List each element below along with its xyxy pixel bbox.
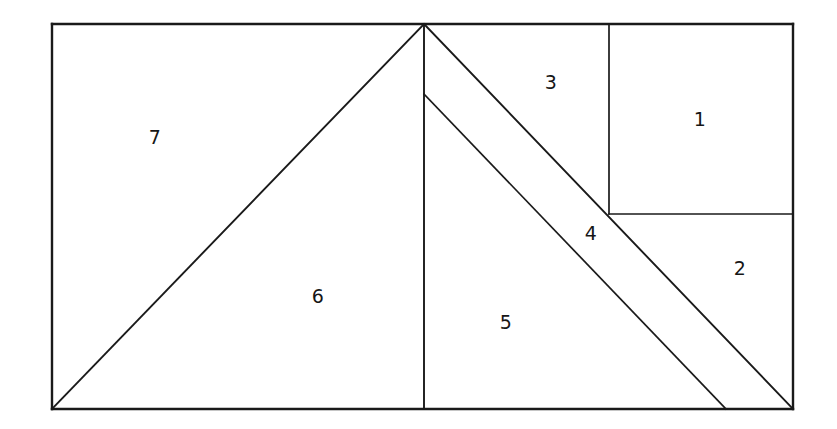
region-7-label: 7 [149,128,161,147]
region-2-label: 2 [734,259,746,278]
dissection-figure [0,0,837,429]
region-6-label: 6 [312,287,324,306]
region-faces [52,24,793,409]
region-5-label: 5 [500,313,512,332]
region-1-label: 1 [694,110,706,129]
region-3-label: 3 [545,73,557,92]
diagram-canvas: 1 2 3 4 5 6 7 [0,0,837,429]
region-4-label: 4 [585,224,597,243]
